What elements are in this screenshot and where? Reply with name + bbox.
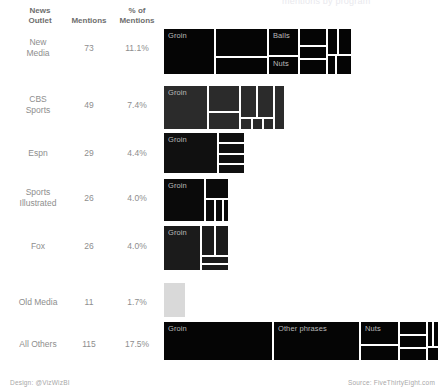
row-pct-value: 17.5% [114, 339, 160, 350]
treemap-cell[interactable] [215, 199, 223, 222]
treemap-cell[interactable] [201, 264, 229, 271]
treemap-row: Groin [163, 85, 285, 130]
treemap-row: Groin [163, 225, 229, 271]
treemap-cell[interactable] [433, 321, 439, 347]
row-outlet-label: Sports Illustrated [10, 187, 66, 209]
treemap-cell[interactable] [263, 118, 274, 130]
treemap-cell-groin[interactable]: Groin [163, 132, 218, 174]
treemap-cell[interactable] [240, 118, 252, 130]
treemap-cell-label: Groin [168, 181, 187, 190]
column-header-mentions: Mentions [66, 16, 112, 26]
treemap-cell[interactable] [208, 112, 240, 130]
treemap-cell-nuts[interactable]: Nuts [268, 56, 299, 75]
row-pct-value: 4.4% [114, 148, 160, 159]
title-fragment: mentions by program [282, 0, 422, 8]
treemap-cell[interactable] [336, 55, 352, 75]
row-mentions-value: 73 [66, 43, 112, 54]
treemap-cell-label: Groin [168, 324, 187, 333]
treemap-cell-groin[interactable]: Groin [163, 225, 201, 271]
table-header-row: News Outlet Mentions % of Mentions [0, 6, 160, 30]
row-mentions-value: 29 [66, 148, 112, 159]
treemap-cell[interactable] [399, 348, 427, 361]
treemap-cell[interactable] [360, 345, 399, 361]
treemap-cell[interactable] [399, 321, 427, 335]
treemap-cell[interactable] [201, 225, 215, 256]
treemap-cell[interactable] [257, 85, 274, 118]
treemap-cell[interactable] [223, 199, 229, 222]
treemap-cell-other-phrases[interactable]: Other phrases [273, 321, 360, 361]
treemap-row: Groin [163, 178, 229, 222]
row-pct-value: 4.0% [114, 241, 160, 252]
row-mentions-value: 49 [66, 100, 112, 111]
treemap-row: Groin [163, 132, 245, 174]
treemap-cell-label: Groin [168, 135, 187, 144]
treemap-cell[interactable] [163, 282, 186, 318]
treemap-cell-label: Groin [168, 88, 187, 97]
treemap-cell-nuts[interactable]: Nuts [360, 321, 399, 345]
footer-design-credit: Design: @VizWizBI [10, 379, 70, 386]
row-pct-value: 1.7% [114, 297, 160, 308]
row-pct-value: 11.1% [114, 43, 160, 54]
treemap-cell[interactable] [427, 347, 439, 361]
treemap-cell-label: Groin [168, 31, 187, 40]
row-pct-value: 4.0% [114, 193, 160, 204]
treemap-cell-label: Groin [168, 228, 187, 237]
column-header-pct-mentions: % of Mentions [114, 6, 160, 26]
treemap-visualization: mentions by program News Outlet Mentions… [0, 0, 441, 391]
row-mentions-value: 115 [66, 339, 112, 350]
treemap-cell[interactable] [338, 28, 352, 55]
treemap-cell-label: Nuts [365, 324, 381, 333]
treemap-cell[interactable] [240, 85, 257, 118]
treemap-cell[interactable] [299, 59, 327, 75]
treemap-cell-label: Nuts [273, 59, 289, 68]
treemap-cell[interactable] [208, 85, 240, 112]
treemap-cell[interactable] [299, 46, 327, 59]
row-outlet-label: New Media [10, 37, 66, 59]
treemap-cell[interactable] [205, 199, 215, 222]
row-mentions-value: 11 [66, 297, 112, 308]
treemap-cell-groin[interactable]: Groin [163, 178, 205, 222]
treemap-cell-groin[interactable]: Groin [163, 321, 273, 361]
treemap-row: GroinOther phrasesNuts [163, 321, 439, 361]
row-outlet-label: Fox [10, 241, 66, 252]
treemap-cell[interactable] [215, 28, 268, 57]
treemap-cell[interactable] [218, 164, 245, 174]
treemap-cell-label: Balls [273, 31, 290, 40]
treemap-cell[interactable] [215, 225, 229, 256]
row-mentions-value: 26 [66, 193, 112, 204]
treemap-cell-groin[interactable]: Groin [163, 85, 208, 130]
treemap-cell[interactable] [215, 57, 268, 75]
treemap-cell-balls[interactable]: Balls [268, 28, 299, 56]
treemap-cell[interactable] [299, 28, 327, 46]
column-header-news-outlet: News Outlet [16, 6, 64, 26]
treemap-cell[interactable] [218, 132, 245, 143]
treemap-cell-label: Other phrases [278, 324, 327, 333]
row-outlet-label: Old Media [10, 297, 66, 308]
footer-source-credit: Source: FiveThirtyEight.com [348, 379, 435, 386]
treemap-row: GroinBallsNuts [163, 28, 352, 75]
treemap-cell[interactable] [201, 256, 229, 264]
row-outlet-label: All Others [10, 339, 66, 350]
row-pct-value: 7.4% [114, 100, 160, 111]
treemap-cell-groin[interactable]: Groin [163, 28, 215, 75]
treemap-cell[interactable] [218, 154, 245, 164]
treemap-cell[interactable] [252, 118, 263, 130]
treemap-row [163, 282, 186, 318]
treemap-cell[interactable] [327, 28, 338, 55]
row-outlet-label: Espn [10, 148, 66, 159]
treemap-cell[interactable] [399, 335, 427, 348]
row-outlet-label: CBS Sports [10, 94, 66, 116]
treemap-cell[interactable] [218, 143, 245, 154]
treemap-cell[interactable] [274, 85, 285, 130]
row-mentions-value: 26 [66, 241, 112, 252]
treemap-cell[interactable] [205, 178, 229, 199]
treemap-cell[interactable] [327, 55, 336, 75]
